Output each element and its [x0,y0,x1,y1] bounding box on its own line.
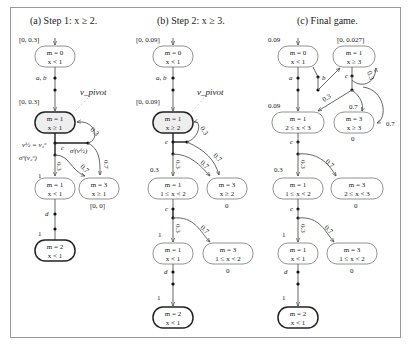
svg-text:2 ≤ x < 3: 2 ≤ x < 3 [285,124,311,132]
panel-a: [0, 0.3] m = 0 x < 1 a, b v_pivot [0, 0.… [19,36,119,261]
svg-text:m = 2: m = 2 [290,310,307,318]
caption-c: (c) Final game. [297,15,358,27]
action-c: c [61,144,65,152]
value-009: 0.09 [268,102,281,110]
node-m1-xlt1: m = 1 x < 1 [278,243,318,264]
pivot-interval: [0, 0.09] [136,98,160,106]
panel-b: [0, 0.09] m = 0 x < 1 a, b v_pivot [0, 0… [136,36,253,328]
prob-loop: 0.3 [365,70,376,81]
svg-text:m = 3: m = 3 [344,246,361,254]
svg-text:x ≥ 1: x ≥ 1 [48,124,63,132]
n3-value: 0 [225,202,229,210]
svg-text:m = 1: m = 1 [47,181,64,189]
node-m2-target: m = 2 x < 1 [153,307,193,328]
prob-down2: 0.3 [299,224,307,233]
svg-text:x < 1: x < 1 [166,58,181,66]
n3-interval: [0, 0] [90,202,105,210]
svg-text:m = 1: m = 1 [290,181,307,189]
n6-value: 0 [350,267,354,275]
svg-text:x < 1: x < 1 [291,319,306,327]
svg-text:m = 1: m = 1 [165,181,182,189]
svg-text:x < 1: x < 1 [48,252,63,260]
node-m1-xlt1: m = 1 x < 1 [153,243,193,264]
svg-text:m = 3: m = 3 [346,115,363,123]
node-m0: m = 0 x < 1 [153,46,193,67]
svg-text:x < 1: x < 1 [48,190,63,198]
init-interval: [0, 0.09] [136,36,160,44]
prob-mid2: 0.7 [199,224,211,236]
svg-text:x < 1: x < 1 [48,58,63,66]
prob-down: 0.3 [174,160,182,169]
node-m3-1to2: m = 3 1 ≤ x < 2 [327,243,377,264]
svg-text:x < 1: x < 1 [166,255,181,263]
caption-b: (b) Step 2: x ≥ 3. [157,15,225,27]
svg-text:m = 3: m = 3 [91,181,108,189]
prob-back: 0.3 [198,125,210,137]
svg-text:m = 1: m = 1 [165,246,182,254]
svg-text:m = 3: m = 3 [220,246,237,254]
svg-text:x ≥ 3: x ≥ 3 [347,124,362,132]
panel-c: 0.09 m = 0 x < 1 [0, 0.027] m = 1 x ≥ 3 … [268,36,395,328]
sigma-u-label: σᵘ(v₂ᵘ) [19,154,37,162]
svg-text:x < 1: x < 1 [291,255,306,263]
value-03: 0.3 [150,166,159,174]
prob-right: 0.7 [386,120,395,128]
action-d: d [284,268,288,276]
svg-text:m = 1: m = 1 [165,115,182,123]
node-m1-1to2: m = 1 1 ≤ x < 2 [273,178,323,199]
prob-mid2: 0.7 [323,224,335,236]
svg-text:x < 1: x < 1 [166,319,181,327]
svg-text:1 ≤ x < 2: 1 ≤ x < 2 [160,190,186,198]
node-pivot: m = 1 x ≥ 1 [35,112,75,133]
value-03: 0.3 [274,166,283,174]
svg-text:m = 0: m = 0 [165,49,182,57]
svg-text:m = 0: m = 0 [290,49,307,57]
node-m3-1to2: m = 3 1 ≤ x < 2 [203,243,253,264]
pivot-label: v_pivot [197,87,224,97]
node-m3-xge2: m = 3 x ≥ 2 [207,178,247,199]
node-m1-1to2: m = 1 1 ≤ x < 2 [148,178,198,199]
svg-text:1 ≤ x < 2: 1 ≤ x < 2 [215,255,241,263]
prob-mid: 0.7 [349,103,358,111]
svg-text:m = 1: m = 1 [290,115,307,123]
value-1: 1 [282,231,286,239]
action-d: d [45,210,49,218]
node-m1-xge3: m = 1 x ≥ 3 [333,46,375,67]
value-final: 1 [157,294,161,302]
action-c2: c [165,205,169,213]
node-m2-target: m = 2 x < 1 [35,240,75,261]
pivot-interval: [0, 0.3] [19,98,39,106]
svg-text:m = 1: m = 1 [290,246,307,254]
game-diagrams: (a) Step 1: x ≥ 2. (b) Step 2: x ≥ 3. (c… [0,0,410,347]
svg-text:m = 2: m = 2 [47,243,64,251]
svg-text:x < 1: x < 1 [291,58,306,66]
pivot-label: v_pivot [80,87,107,97]
value-final: 1 [38,230,42,238]
n6-value: 0 [226,267,230,275]
svg-text:m = 2: m = 2 [165,310,182,318]
prob-back: 0.3 [321,92,333,104]
edge-label-ab: a, b [36,74,47,82]
node-m1-xlt1: m = 1 x < 1 [35,178,75,199]
node-m3-2to3: m = 3 2 ≤ x < 3 [331,178,383,199]
node-m0: m = 0 x < 1 [35,46,75,67]
action-b: b [322,74,326,82]
caption-a: (a) Step 1: x ≥ 2. [30,15,97,27]
node-m3-xge3: m = 3 x ≥ 3 [334,112,374,133]
action-c-top: c [345,72,349,80]
sigma-l-label: σˡ(v½) [70,147,88,155]
prob-mid-d: 0.7 [324,158,336,170]
action-c1: c [290,138,294,146]
value-final: 1 [282,294,286,302]
edge-label-ab: a, b [156,74,167,82]
action-c2: c [290,205,294,213]
init-interval: [0, 0.3] [19,36,39,44]
prob-down: 0.3 [299,160,307,169]
action-c1: c [165,138,169,146]
svg-text:m = 1: m = 1 [47,115,64,123]
svg-text:m = 3: m = 3 [219,181,236,189]
svg-text:x ≥ 1: x ≥ 1 [92,190,107,198]
value-1: 1 [158,231,162,239]
n3t-value: 0 [351,135,355,143]
svg-text:m = 1: m = 1 [346,49,363,57]
